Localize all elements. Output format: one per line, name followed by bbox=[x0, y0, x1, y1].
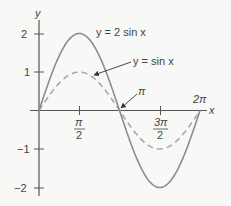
pi-label: π bbox=[138, 85, 146, 97]
pi-arrow bbox=[121, 94, 137, 108]
x-axis-label: x bbox=[208, 104, 215, 116]
y-axis-label: y bbox=[34, 7, 42, 19]
y-tick-minus-2: −2 bbox=[14, 182, 27, 194]
curve-2-sin-x-label: y = 2 sin x bbox=[96, 26, 146, 38]
y-tick-minus-1: −1 bbox=[17, 143, 30, 155]
y-tick-2: 2 bbox=[21, 28, 27, 40]
sin-x-arrow bbox=[94, 62, 131, 75]
two-pi-label: 2π bbox=[192, 93, 207, 105]
x-tick-pi-over-2-den: 2 bbox=[76, 129, 82, 141]
x-tick-pi-over-2-num: π bbox=[75, 116, 83, 128]
sine-chart: y x 2 1 −1 −2 π 2 3π 2 π 2π y = 2 sin x … bbox=[0, 0, 231, 206]
curve-sin-x-label: y = sin x bbox=[133, 55, 174, 67]
x-tick-3pi-over-2-den: 2 bbox=[157, 129, 163, 141]
y-tick-1: 1 bbox=[24, 66, 30, 78]
x-tick-3pi-over-2-num: 3π bbox=[154, 116, 168, 128]
